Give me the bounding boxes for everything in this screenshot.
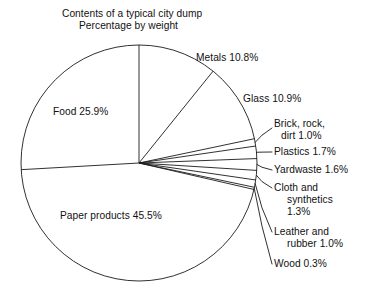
slice-label-cloth-synthetics-line1: Cloth and <box>274 182 318 194</box>
slice-label-brick-rock-dirt-line1: Brick, rock, <box>274 118 325 130</box>
slice-edge-leather-and-rubber <box>139 163 256 180</box>
chart-title-line-1: Contents of a typical city dump <box>62 8 202 20</box>
slice-label-brick-rock-dirt-line2: dirt 1.0% <box>281 130 322 142</box>
leader-line-yardwaste <box>257 164 272 170</box>
slice-label-metals: Metals 10.8% <box>196 52 258 64</box>
slice-label-cloth-synthetics-line3: 1.3% <box>287 206 310 218</box>
slice-edge-glass <box>139 71 213 163</box>
slice-label-paper-products: Paper products 45.5% <box>60 210 162 222</box>
slice-label-wood: Wood 0.3% <box>274 258 327 270</box>
leader-line-brick-rock-dirt <box>255 128 272 142</box>
pie-chart-figure: Contents of a typical city dump Percenta… <box>0 0 367 296</box>
slice-label-leather-rubber-line2: rubber 1.0% <box>287 238 343 250</box>
slice-label-plastics: Plastics 1.7% <box>274 146 336 158</box>
slice-label-glass: Glass 10.9% <box>243 93 301 105</box>
slice-label-yardwaste: Yardwaste 1.6% <box>274 164 348 176</box>
slice-label-leather-rubber-line1: Leather and <box>274 226 329 238</box>
pie-slice-group <box>21 45 257 281</box>
leader-line-cloth-and-synthetics <box>256 175 272 188</box>
leader-line-leather-and-rubber <box>255 184 272 232</box>
slice-label-cloth-synthetics-line2: synthetics <box>287 194 333 206</box>
chart-subtitle-line-2: Percentage by weight <box>79 20 178 32</box>
slice-edge-food <box>21 163 139 170</box>
leader-line-group <box>254 128 272 264</box>
slice-label-food: Food 25.9% <box>53 106 108 118</box>
